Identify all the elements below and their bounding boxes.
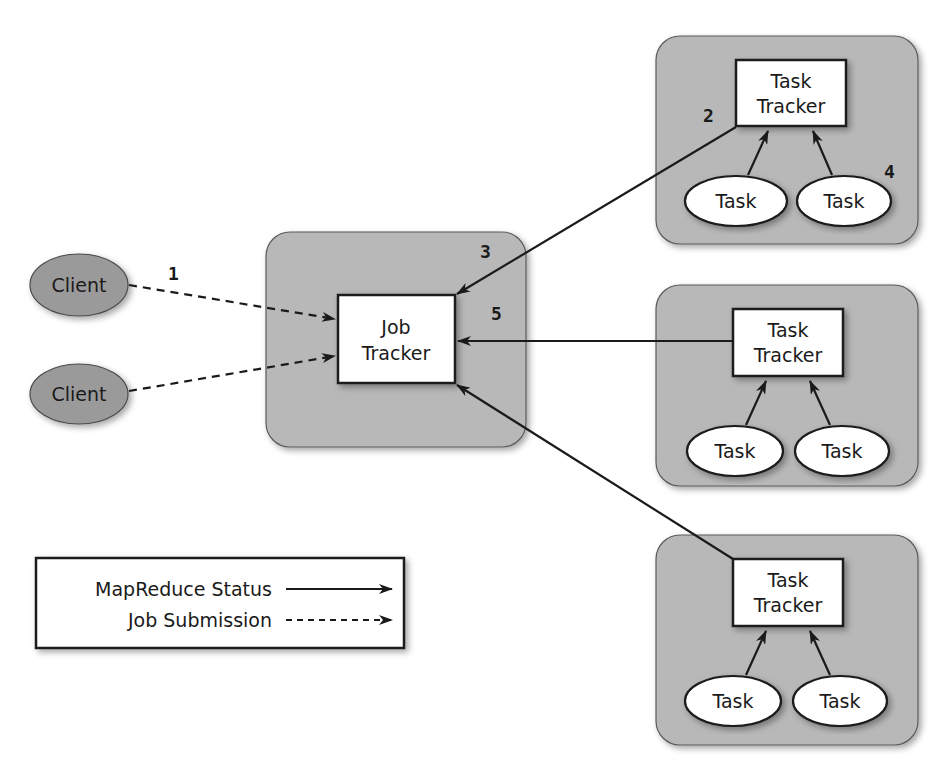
task-tracker-label-line2: Tracker xyxy=(753,594,823,616)
task-node-bottom: Task Tracker Task Task xyxy=(656,535,918,745)
job-tracker-node: Job Tracker xyxy=(266,232,526,447)
legend: MapReduce Status Job Submission xyxy=(36,558,404,648)
task-tracker-label-line1: Task xyxy=(766,319,808,341)
task-label: Task xyxy=(822,190,864,212)
step-label-1: 1 xyxy=(168,263,179,284)
client-label: Client xyxy=(51,383,106,405)
task-label: Task xyxy=(818,690,860,712)
mapreduce-architecture-diagram: Job Tracker Task Tracker Task Task Task … xyxy=(0,0,952,775)
task-label: Task xyxy=(820,440,862,462)
step-label-5: 5 xyxy=(491,303,502,324)
job-tracker-box xyxy=(338,295,455,383)
legend-submission-label: Job Submission xyxy=(127,609,272,631)
client-bottom: Client xyxy=(30,364,128,424)
job-tracker-label-line2: Tracker xyxy=(361,342,431,364)
job-tracker-label-line1: Job xyxy=(380,316,410,338)
client-top: Client xyxy=(30,254,128,316)
task-label: Task xyxy=(713,440,755,462)
task-label: Task xyxy=(711,690,753,712)
legend-status-label: MapReduce Status xyxy=(95,578,272,600)
task-node-top: Task Tracker Task Task xyxy=(656,36,918,244)
task-tracker-label-line1: Task xyxy=(769,70,811,92)
step-label-2: 2 xyxy=(703,105,714,126)
step-label-4: 4 xyxy=(884,161,895,182)
task-tracker-label-line2: Tracker xyxy=(756,95,826,117)
step-label-3: 3 xyxy=(480,241,491,262)
task-tracker-label-line1: Task xyxy=(766,569,808,591)
task-tracker-label-line2: Tracker xyxy=(753,344,823,366)
task-node-middle: Task Tracker Task Task xyxy=(656,285,918,486)
client-label: Client xyxy=(51,274,106,296)
task-label: Task xyxy=(714,190,756,212)
